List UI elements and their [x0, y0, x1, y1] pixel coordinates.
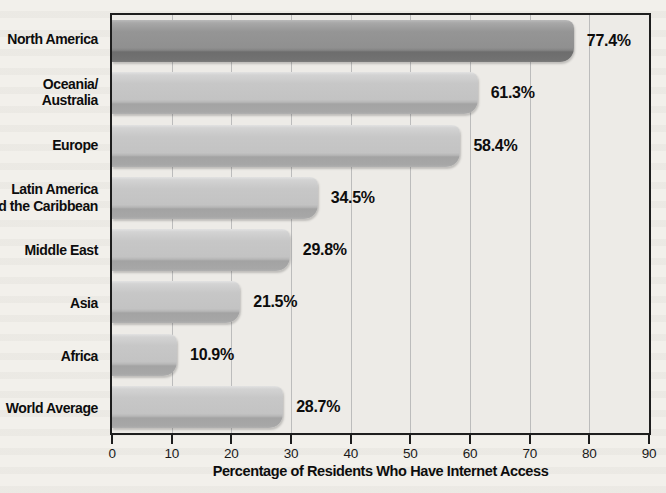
bar-row: 58.4%: [112, 120, 649, 172]
bar-europe: [112, 125, 460, 167]
x-axis-tick: [230, 435, 232, 444]
bar-africa: [112, 334, 177, 376]
x-axis-tick-label: 30: [284, 446, 298, 461]
x-axis-tick: [469, 435, 471, 444]
x-axis-tick-label: 40: [343, 446, 357, 461]
bar-value-label: 77.4%: [587, 32, 631, 50]
x-axis-tick: [171, 435, 173, 444]
x-axis-tick-labels: 0102030405060708090: [112, 446, 649, 462]
bar-row: 77.4%: [112, 15, 649, 67]
x-axis-tick-label: 90: [642, 446, 656, 461]
scanned-book-page: 77.4%61.3%58.4%34.5%29.8%21.5%10.9%28.7%…: [0, 0, 666, 493]
bar-row: 10.9%: [112, 329, 649, 381]
bar-value-label: 29.8%: [303, 241, 347, 259]
bar-row: 61.3%: [112, 67, 649, 119]
bar-value-label: 21.5%: [253, 293, 297, 311]
bar-value-label: 28.7%: [296, 398, 340, 416]
bar-latin-america-and-the-caribbean: [112, 177, 318, 219]
bar-value-label: 61.3%: [491, 84, 535, 102]
bar-oceania-australia: [112, 72, 478, 114]
category-label: Oceania/Australia: [0, 66, 104, 119]
x-axis-tick-label: 80: [582, 446, 596, 461]
category-label: Middle East: [0, 224, 104, 277]
category-label: North America: [0, 13, 104, 66]
bar-value-label: 58.4%: [473, 137, 517, 155]
x-axis-tick: [111, 435, 113, 444]
x-axis-tick-label: 60: [463, 446, 477, 461]
x-axis-tick: [648, 435, 650, 444]
category-label: Europe: [0, 119, 104, 172]
category-label: Asia: [0, 277, 104, 330]
category-label: World Average: [0, 382, 104, 435]
bar-asia: [112, 281, 240, 323]
x-axis-tick-label: 10: [164, 446, 178, 461]
bar-value-label: 34.5%: [331, 189, 375, 207]
bar-value-label: 10.9%: [190, 346, 234, 364]
plot-area: 77.4%61.3%58.4%34.5%29.8%21.5%10.9%28.7%: [110, 13, 651, 435]
x-axis-tick-label: 20: [224, 446, 238, 461]
category-label: Africa: [0, 330, 104, 383]
x-axis-tick: [409, 435, 411, 444]
x-axis-ticks: [112, 435, 649, 445]
bar-north-america: [112, 20, 574, 62]
bar-row: 28.7%: [112, 381, 649, 433]
bar-row: 34.5%: [112, 172, 649, 224]
category-label: Latin Americaand the Caribbean: [0, 171, 104, 224]
bar-row: 29.8%: [112, 224, 649, 276]
x-axis-label: Percentage of Residents Who Have Interne…: [112, 463, 649, 479]
bar-middle-east: [112, 229, 290, 271]
bar-rows: 77.4%61.3%58.4%34.5%29.8%21.5%10.9%28.7%: [112, 15, 649, 433]
x-axis-tick: [350, 435, 352, 444]
x-axis-tick: [290, 435, 292, 444]
bar-world-average: [112, 386, 283, 428]
x-axis-tick: [588, 435, 590, 444]
x-axis-tick-label: 70: [522, 446, 536, 461]
x-axis-tick-label: 50: [403, 446, 417, 461]
x-axis-tick: [529, 435, 531, 444]
bar-row: 21.5%: [112, 276, 649, 328]
category-axis: North AmericaOceania/AustraliaEuropeLati…: [0, 13, 104, 435]
x-axis-tick-label: 0: [108, 446, 115, 461]
